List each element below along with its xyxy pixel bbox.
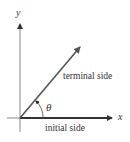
x-axis-label: x (118, 112, 122, 122)
initial-side-label: initial side (45, 124, 85, 134)
terminal-side-label: terminal side (63, 72, 112, 82)
y-axis-label: y (16, 8, 20, 18)
angle-diagram: y x θ terminal side initial side (0, 0, 130, 142)
theta-label: θ (46, 102, 51, 113)
angle-arc (36, 101, 43, 118)
